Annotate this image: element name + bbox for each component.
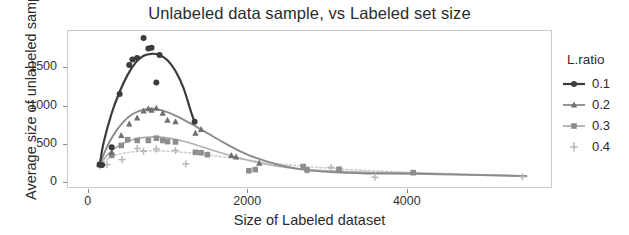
legend-label: 0.1 [592, 76, 610, 91]
y-tick-label: 1500 [5, 59, 57, 73]
plot-panel [67, 30, 552, 188]
legend-item-0.1[interactable]: 0.1 [561, 73, 629, 94]
x-tick-mark [407, 189, 408, 193]
x-tick-label: 0 [84, 194, 91, 208]
legend-label: 0.4 [592, 139, 610, 154]
legend-item-0.2[interactable]: 0.2 [561, 94, 629, 115]
y-tick-mark [63, 144, 67, 145]
legend-key-triangle-icon [561, 96, 587, 114]
y-tick-label: 0 [5, 174, 57, 188]
legend-key-square-icon [561, 117, 587, 135]
x-tick-label: 2000 [233, 194, 261, 208]
chart-container: Unlabeled data sample, vs Labeled set si… [0, 0, 629, 235]
y-tick-mark [63, 67, 67, 68]
legend-key-plus-icon [561, 138, 587, 156]
x-tick-mark [247, 189, 248, 193]
legend: L.ratio 0.10.20.30.4 [561, 52, 629, 157]
legend-item-0.3[interactable]: 0.3 [561, 115, 629, 136]
legend-label: 0.2 [592, 97, 610, 112]
y-tick-label: 500 [5, 136, 57, 150]
legend-key-circle-icon [561, 75, 587, 93]
chart-title: Unlabeled data sample, vs Labeled set si… [67, 4, 552, 23]
legend-items: 0.10.20.30.4 [561, 73, 629, 157]
y-tick-mark [63, 182, 67, 183]
legend-title: L.ratio [567, 52, 629, 67]
x-axis-label: Size of Labeled dataset [67, 212, 552, 228]
data-point-square [571, 123, 577, 129]
data-point-plus [570, 143, 577, 150]
y-tick-mark [63, 106, 67, 107]
y-tick-label: 1000 [5, 98, 57, 112]
legend-label: 0.3 [592, 118, 610, 133]
x-tick-label: 4000 [393, 194, 421, 208]
data-point-circle [571, 81, 577, 87]
legend-item-0.4[interactable]: 0.4 [561, 136, 629, 157]
x-tick-mark [88, 189, 89, 193]
